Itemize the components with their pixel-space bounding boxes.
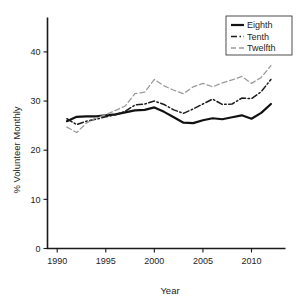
data-series	[67, 66, 271, 133]
x-tick-label-2000: 2000	[144, 256, 164, 266]
x-tick-label-2010: 2010	[241, 256, 261, 266]
y-tick-label-40: 40	[30, 47, 40, 57]
x-axis-title: Year	[160, 285, 179, 296]
x-tick-label-1990: 1990	[47, 256, 67, 266]
y-axis-tick-labels: 010203040	[30, 47, 40, 254]
legend-label-tenth: Tenth	[247, 32, 269, 42]
y-axis-title: % Volunteer Monthly	[11, 106, 22, 193]
y-tick-label-0: 0	[35, 244, 40, 254]
legend-label-eighth: Eighth	[247, 20, 273, 30]
legend-label-twelfth: Twelfth	[247, 43, 276, 53]
chart-canvas: 010203040 19901995200020052010 % Volunte…	[0, 0, 300, 302]
y-tick-label-20: 20	[30, 145, 40, 155]
y-tick-label-10: 10	[30, 195, 40, 205]
volunteer-monthly-line-chart: 010203040 19901995200020052010 % Volunte…	[0, 0, 300, 302]
x-axis-tick-labels: 19901995200020052010	[47, 256, 261, 266]
y-tick-label-30: 30	[30, 96, 40, 106]
chart-legend: EighthTenthTwelfth	[226, 16, 292, 55]
x-tick-label-2005: 2005	[193, 256, 213, 266]
x-tick-label-1995: 1995	[96, 256, 116, 266]
